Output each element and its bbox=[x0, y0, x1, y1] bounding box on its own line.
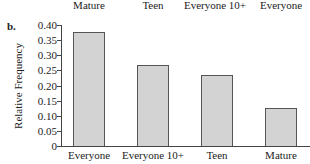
bar-chart: 00.050.100.150.200.250.300.350.40Everyon… bbox=[0, 0, 310, 164]
y-tick-label: 0.25 bbox=[38, 64, 57, 76]
y-tick-label: 0.30 bbox=[38, 49, 57, 61]
y-tick-label: 0.35 bbox=[38, 34, 57, 46]
y-tick bbox=[57, 101, 61, 102]
y-tick bbox=[57, 131, 61, 132]
y-tick bbox=[57, 25, 61, 26]
x-category-label: Teen bbox=[206, 149, 227, 161]
y-tick bbox=[57, 70, 61, 71]
y-tick bbox=[57, 116, 61, 117]
x-category-label: Everyone 10+ bbox=[122, 149, 184, 161]
y-tick-label: 0 bbox=[52, 140, 58, 152]
x-category-label: Mature bbox=[265, 149, 297, 161]
y-tick-label: 0.05 bbox=[38, 125, 57, 137]
y-tick-label: 0.10 bbox=[38, 110, 57, 122]
bar bbox=[137, 65, 169, 146]
x-category-label: Everyone bbox=[68, 149, 110, 161]
y-tick bbox=[57, 86, 61, 87]
y-tick-label: 0.20 bbox=[38, 80, 57, 92]
bar bbox=[73, 32, 105, 146]
bar bbox=[201, 75, 233, 146]
y-tick bbox=[57, 55, 61, 56]
x-axis bbox=[61, 146, 310, 147]
y-tick bbox=[57, 146, 61, 147]
y-tick-label: 0.40 bbox=[38, 19, 57, 31]
y-tick-label: 0.15 bbox=[38, 95, 57, 107]
y-axis bbox=[61, 25, 62, 146]
y-tick bbox=[57, 40, 61, 41]
bar bbox=[265, 108, 297, 146]
